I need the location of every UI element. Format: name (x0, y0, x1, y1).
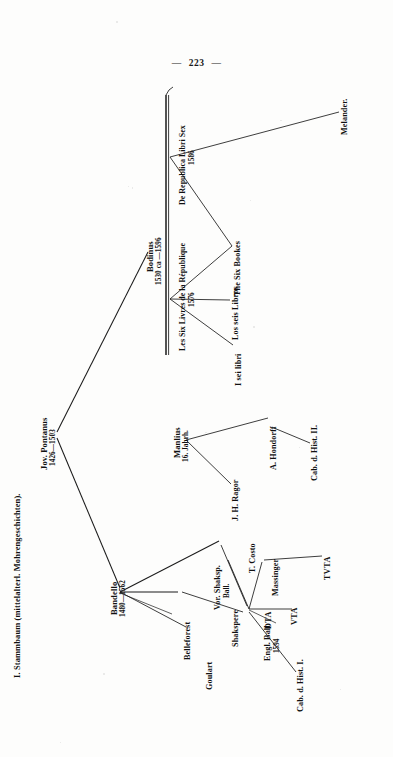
leaf-vor-shaksp-ball: Vor. Shaksp. (214, 565, 223, 610)
paper-speck (299, 447, 300, 448)
node-manlius-dates: 16. Jahrh. (183, 430, 191, 462)
leaf-cab-d-hist-ii: Cab. d. Hist. II. (311, 425, 320, 481)
page-number: 223 (189, 58, 205, 68)
leaf-a-hondorff: A. Hondorff (270, 426, 279, 470)
paper-speck (280, 120, 282, 121)
paper-speck (116, 21, 118, 23)
node-bandello-dates: 1480—1562 (120, 580, 128, 617)
paper-speck (250, 200, 251, 201)
tree-edges (0, 0, 393, 757)
page-canvas: —223— (0, 0, 393, 757)
paper-speck (103, 673, 105, 675)
leaf-t-costo: T. Costo (249, 543, 258, 573)
node-manlius: Manlius (173, 427, 182, 458)
work-les-six-livres-year: 1576 (189, 292, 197, 307)
leaf-cab-d-hist-i: Cab. d. Hist. I. (297, 659, 306, 712)
paper-speck (128, 186, 129, 187)
work-de-republica: De Republica Libri Sex (179, 125, 188, 205)
paper-speck (340, 689, 341, 690)
node-bodinus-dates: 1530 ca —1596 (156, 237, 164, 285)
work-de-republica-year: 1586 (189, 150, 197, 165)
leaf-tvta: TVTA (324, 556, 333, 580)
work-les-six-livres: Les Six Livres de la République (179, 243, 188, 351)
page-number-header: —223— (0, 58, 393, 68)
leaf-engl-ball-year: 1594 (274, 639, 282, 653)
paper-speck (253, 326, 255, 328)
paper-speck (205, 432, 207, 433)
leaf-melander: Melander. (341, 99, 350, 135)
leaf-belleforest: Belleforest (184, 622, 193, 660)
leaf-vor-shaksp-ball-sub: Ball. (224, 584, 232, 598)
leaf-los-seis-libros: Los seis Libros (232, 286, 241, 340)
leaf-shakspere: Shakspere (232, 610, 241, 647)
node-jov-pontanus: Jov. Pontanus (40, 418, 49, 470)
node-jov-pontanus-dates: 1426—1503 (50, 429, 58, 466)
paper-speck (132, 187, 133, 189)
rule-dash-right: — (204, 58, 228, 68)
rule-dash-left: — (165, 58, 189, 68)
leaf-i-sei-libri: I sei libri (235, 354, 244, 387)
leaf-vta: VTA (291, 607, 300, 625)
node-bodinus: Bodinus (146, 241, 155, 272)
leaf-dta: DTA (265, 611, 274, 629)
leaf-massinger: Massinger (272, 559, 281, 596)
leaf-jh-ragor: J. H. Ragor (232, 479, 241, 521)
paper-speck (60, 742, 61, 743)
node-bandello: Bandello (110, 582, 119, 615)
figure-title: I. Stammbaum (mittelalterl. Mohrengeschi… (13, 493, 22, 678)
leaf-goulart: Goulart (206, 662, 215, 690)
